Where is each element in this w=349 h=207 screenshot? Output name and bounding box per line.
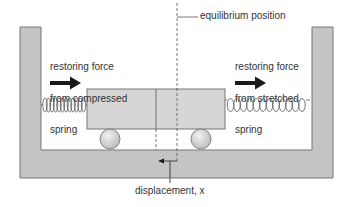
right-force-line-3: spring — [235, 125, 299, 136]
equilibrium-position-label: equilibrium position — [200, 11, 286, 22]
right-wheel — [191, 129, 211, 149]
right-force-line-1: restoring force — [235, 62, 299, 73]
left-force-line-2: from compressed — [50, 94, 127, 105]
left-force-line-3: spring — [50, 125, 127, 136]
right-force-line-2: from stretched — [235, 94, 299, 105]
left-force-label: restoring force from compressed spring — [50, 41, 127, 157]
left-force-line-1: restoring force — [50, 62, 127, 73]
diagram-canvas: equilibrium position restoring force fro… — [0, 0, 349, 207]
right-force-label: restoring force from stretched spring — [235, 41, 299, 157]
displacement-label: displacement, x — [135, 186, 204, 197]
